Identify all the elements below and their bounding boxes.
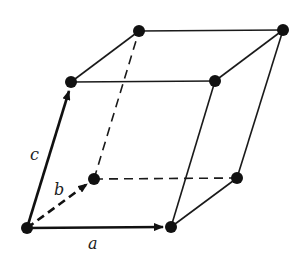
edge-top-right [215,30,283,81]
node-abc [277,24,289,36]
label-c: c [30,145,39,164]
node-ab [231,172,243,184]
hidden-edges [94,31,237,179]
edge-bottom-right [171,178,237,227]
edge-top-back [139,30,283,31]
node-bc [133,25,145,37]
edge-top-front [71,81,215,82]
node-a [165,221,177,233]
node-c [65,76,77,88]
label-b: b [54,180,64,199]
node-origin [21,222,33,234]
edge-bottom-back [94,178,237,179]
node-ac [209,75,221,87]
label-a: a [88,234,98,253]
edge-back-right [237,30,283,178]
edge-front-right [171,81,215,227]
node-b [88,173,100,185]
solid-edges [71,30,283,227]
unit-cell-diagram: a b c [0,0,299,261]
vector-a-arrow [27,227,163,228]
edge-top-left [71,31,139,82]
edge-back-left [94,31,139,179]
lattice-vectors [27,91,163,228]
